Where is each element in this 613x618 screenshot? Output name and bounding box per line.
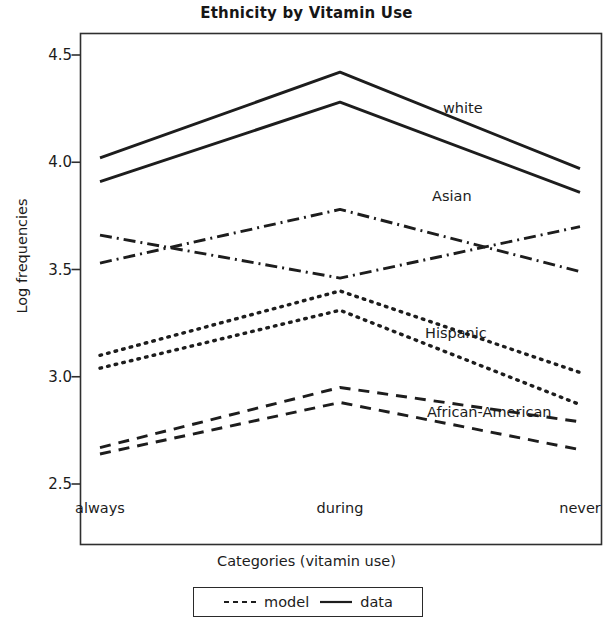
y-tick-label: 3.5 (26, 261, 72, 279)
plot-area (0, 0, 613, 618)
legend-label-data: data (360, 594, 393, 610)
y-tick-label: 4.0 (26, 153, 72, 171)
x-axis-label: Categories (vitamin use) (0, 553, 613, 569)
chart-title: Ethnicity by Vitamin Use (0, 4, 613, 22)
series-label: Hispanic (425, 325, 487, 341)
y-axis-ticks (72, 55, 81, 484)
y-axis-tick-labels: 2.53.03.54.04.5 (26, 0, 72, 618)
series-line (100, 72, 580, 169)
legend-swatch-solid-icon (319, 597, 353, 607)
legend-entry-data: data (319, 594, 393, 610)
x-tick-label: always (75, 500, 125, 516)
series-label: white (443, 100, 483, 116)
series-label: Asian (432, 188, 472, 204)
legend-swatch-dashed-icon (223, 597, 257, 607)
chart-figure: Ethnicity by Vitamin Use Log frequencies… (0, 0, 613, 618)
y-tick-label: 3.0 (26, 368, 72, 386)
series-lines (100, 72, 580, 454)
series-line (100, 102, 580, 192)
y-tick-label: 2.5 (26, 475, 72, 493)
series-line (100, 310, 580, 404)
legend: model data (193, 587, 423, 617)
x-tick-label: never (559, 500, 601, 516)
x-tick-label: during (317, 500, 364, 516)
y-tick-label: 4.5 (26, 46, 72, 64)
series-line (100, 291, 580, 373)
plot-frame (81, 34, 602, 545)
series-line (100, 209, 580, 271)
legend-entry-model: model (223, 594, 309, 610)
series-label: African-American (427, 404, 551, 420)
legend-label-model: model (264, 594, 309, 610)
